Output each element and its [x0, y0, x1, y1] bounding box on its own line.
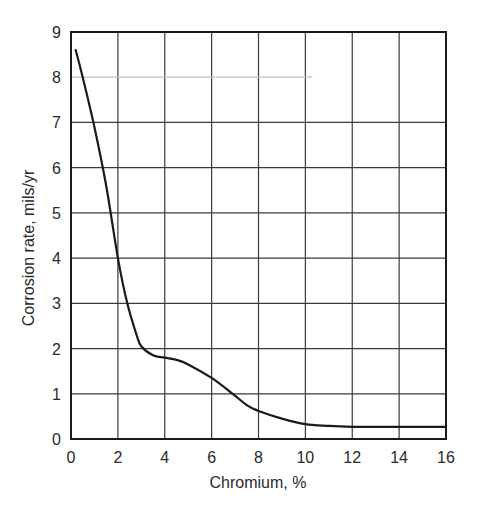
- y-tick-label: 8: [52, 69, 61, 86]
- x-tick-label: 0: [67, 449, 76, 466]
- x-tick-label: 14: [390, 449, 408, 466]
- x-tick-label: 10: [296, 449, 314, 466]
- x-tick-label: 2: [113, 449, 122, 466]
- x-tick-label: 6: [207, 449, 216, 466]
- y-tick-label: 6: [52, 160, 61, 177]
- grid-lines: [71, 32, 446, 439]
- y-axis-tick-labels: 0123456789: [52, 24, 61, 448]
- corrosion-rate-chart: 0246810121416 0123456789 Chromium, % Cor…: [0, 0, 477, 516]
- y-tick-label: 4: [52, 250, 61, 267]
- y-tick-label: 1: [52, 386, 61, 403]
- y-tick-label: 3: [52, 295, 61, 312]
- y-tick-label: 5: [52, 205, 61, 222]
- x-tick-label: 12: [343, 449, 361, 466]
- x-axis-tick-labels: 0246810121416: [67, 449, 455, 466]
- x-axis-title: Chromium, %: [210, 474, 307, 491]
- corrosion-curve: [76, 50, 446, 427]
- x-tick-label: 8: [254, 449, 263, 466]
- y-tick-label: 7: [52, 114, 61, 131]
- y-tick-label: 2: [52, 341, 61, 358]
- data-series: [76, 50, 446, 427]
- y-tick-label: 9: [52, 24, 61, 41]
- y-axis-title: Corrosion rate, mils/yr: [20, 169, 37, 326]
- y-tick-label: 0: [52, 431, 61, 448]
- x-tick-label: 4: [160, 449, 169, 466]
- x-tick-label: 16: [437, 449, 455, 466]
